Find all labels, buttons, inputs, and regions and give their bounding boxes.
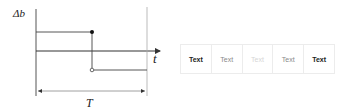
step-function-diagram: Δb t T xyxy=(0,0,175,111)
period-label: T xyxy=(86,96,94,110)
open-endpoint-dot xyxy=(90,68,94,72)
diagram-canvas: Δb t T xyxy=(0,0,175,111)
segmented-control: Text Text Text Text Text xyxy=(180,44,335,74)
segment-3-disabled[interactable]: Text xyxy=(243,45,274,73)
x-axis-label: t xyxy=(153,51,157,66)
segment-4[interactable]: Text xyxy=(273,45,304,73)
segment-5[interactable]: Text xyxy=(304,45,334,73)
segment-2[interactable]: Text xyxy=(212,45,243,73)
segment-1[interactable]: Text xyxy=(181,45,212,73)
y-axis-label: Δb xyxy=(12,7,25,19)
filled-endpoint-dot xyxy=(90,30,94,34)
